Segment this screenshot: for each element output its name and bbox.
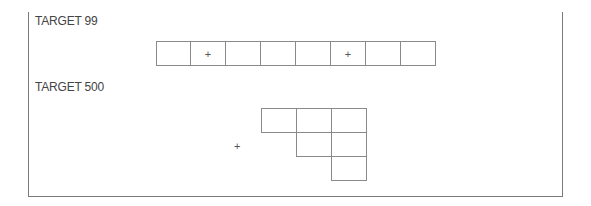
puzzle-2-cell[interactable] [261, 108, 297, 133]
puzzle-1-cell[interactable] [296, 41, 331, 66]
puzzle-2-cell[interactable] [296, 132, 332, 157]
puzzle-2-cell[interactable] [296, 108, 332, 133]
puzzle-frame [28, 12, 563, 197]
puzzle-2-cell[interactable] [331, 132, 367, 157]
puzzle-1-cell[interactable] [156, 41, 191, 66]
puzzle-1-cell[interactable] [366, 41, 401, 66]
puzzle-1-cell[interactable] [401, 41, 436, 66]
puzzle-1-title: TARGET 99 [35, 14, 97, 28]
puzzle-1-cell[interactable]: + [331, 41, 366, 66]
puzzle-2-title: TARGET 500 [35, 80, 104, 94]
puzzle-1-cell[interactable] [261, 41, 296, 66]
puzzle-2-cell[interactable] [331, 156, 367, 181]
puzzle-2-cell[interactable] [331, 108, 367, 133]
puzzle-2-plus-marker: + [234, 140, 240, 152]
puzzle-1-cell[interactable] [226, 41, 261, 66]
puzzle-1-cell[interactable]: + [191, 41, 226, 66]
